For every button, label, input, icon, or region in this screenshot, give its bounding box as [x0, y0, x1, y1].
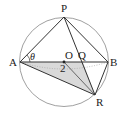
label-Q: Q [78, 49, 86, 61]
length-label: 2 [60, 62, 66, 74]
geometry-figure: P A B O Q R θ 2 [0, 0, 127, 115]
label-P: P [61, 2, 67, 14]
segment-BR [95, 62, 108, 95]
label-O: O [65, 49, 73, 61]
label-A: A [9, 56, 17, 68]
label-B: B [110, 56, 117, 68]
angle-theta-label: θ [30, 51, 35, 62]
label-R: R [96, 96, 104, 108]
